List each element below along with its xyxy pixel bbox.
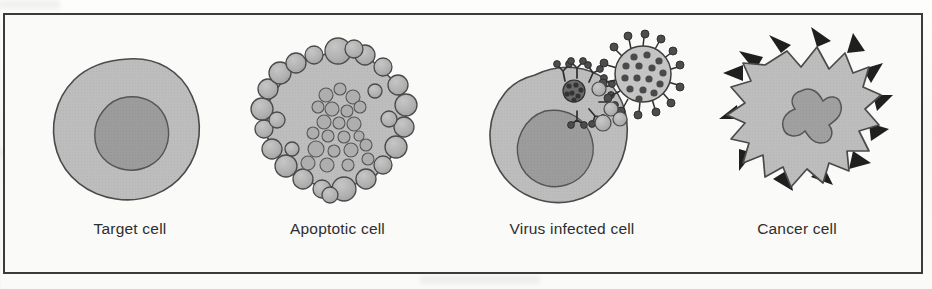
scan-smudge <box>0 0 60 9</box>
cancer-cell-illustration <box>677 23 917 223</box>
panel-label-target-cell: Target cell <box>15 220 245 238</box>
target-cell-illustration <box>15 23 245 223</box>
viral-antigen-cluster <box>563 80 585 103</box>
virus-infected-cell-illustration <box>453 23 691 223</box>
virus-infected-cell-nucleus <box>517 110 593 186</box>
panel-label-apoptotic-cell: Apoptotic cell <box>220 220 455 238</box>
panel-apoptotic-cell: Apoptotic cell <box>220 15 455 272</box>
figure-frame: Target cell <box>3 13 923 274</box>
figure-page: Target cell <box>0 0 932 289</box>
panel-virus-infected-cell: Virus infected cell <box>453 15 691 272</box>
apoptotic-cell-illustration <box>220 23 455 223</box>
panel-label-virus-infected-cell: Virus infected cell <box>453 220 691 238</box>
panel-cancer-cell: Cancer cell <box>677 15 917 272</box>
target-cell-nucleus <box>95 97 169 170</box>
panel-label-cancer-cell: Cancer cell <box>677 220 917 238</box>
panel-target-cell: Target cell <box>15 15 245 272</box>
scan-smudge <box>420 276 540 284</box>
